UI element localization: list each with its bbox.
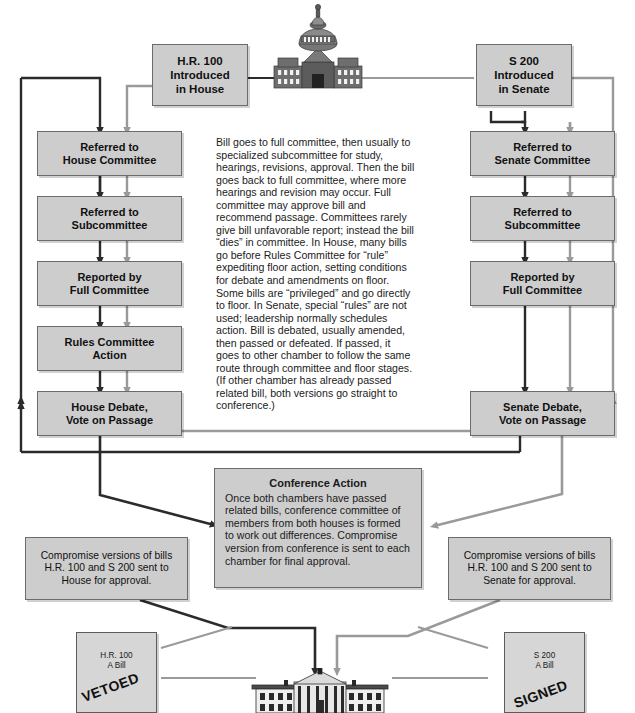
vetoed-bill-kind: A Bill	[107, 661, 125, 670]
intro-box-senate-label: S 200 Introduced in Senate	[494, 54, 553, 96]
house-step-referred-to-house-committee[interactable]: Referred to House Committee	[37, 131, 182, 176]
signed-stamp: SIGNED	[512, 677, 570, 711]
senate-step-senate-debate-vote-on-passage[interactable]: Senate Debate, Vote on Passage	[470, 391, 615, 436]
senate-step-reported-by-full-committee[interactable]: Reported by Full Committee	[470, 261, 615, 306]
vetoed-bill-number: H.R. 100	[100, 651, 132, 660]
intro-box-house[interactable]: H.R. 100 Introduced in House	[152, 44, 248, 106]
intro-box-senate[interactable]: S 200 Introduced in Senate	[476, 44, 572, 106]
white-house-building-illustration	[250, 668, 390, 713]
compromise-senate-label: Compromise versions of bills H.R. 100 an…	[455, 550, 604, 587]
compromise-house-label: Compromise versions of bills H.R. 100 an…	[32, 550, 181, 587]
senate-step-referred-to-subcommittee[interactable]: Referred to Subcommittee	[470, 196, 615, 241]
house-step-referred-to-subcommittee[interactable]: Referred to Subcommittee	[37, 196, 182, 241]
intro-box-house-label: H.R. 100 Introduced in House	[170, 54, 229, 96]
conference-action-heading: Conference Action	[225, 477, 411, 490]
signed-bill-kind: A Bill	[535, 661, 553, 670]
signed-bill-number: S 200	[534, 651, 555, 660]
compromise-senate-box[interactable]: Compromise versions of bills H.R. 100 an…	[448, 537, 611, 600]
senate-step-referred-to-senate-committee[interactable]: Referred to Senate Committee	[470, 131, 615, 176]
signed-bill-box[interactable]: S 200 A Bill SIGNED	[504, 632, 585, 713]
compromise-house-box[interactable]: Compromise versions of bills H.R. 100 an…	[25, 537, 188, 600]
house-step-rules-committee-action[interactable]: Rules Committee Action	[37, 326, 182, 371]
conference-action-box[interactable]: Conference Action Once both chambers hav…	[214, 468, 422, 588]
bill-becomes-law-diagram: H.R. 100 Introduced in House S 200 Intro…	[0, 0, 635, 713]
vetoed-stamp: VETOED	[80, 670, 142, 705]
house-step-house-debate-vote-on-passage[interactable]: House Debate, Vote on Passage	[37, 391, 182, 436]
us-capitol-building-illustration	[268, 2, 368, 98]
house-step-reported-by-full-committee[interactable]: Reported by Full Committee	[37, 261, 182, 306]
vetoed-bill-box[interactable]: H.R. 100 A Bill VETOED	[76, 632, 157, 713]
committee-process-note: Bill goes to full committee, then usuall…	[216, 136, 416, 412]
conference-action-body: Once both chambers have passed related b…	[225, 492, 410, 567]
